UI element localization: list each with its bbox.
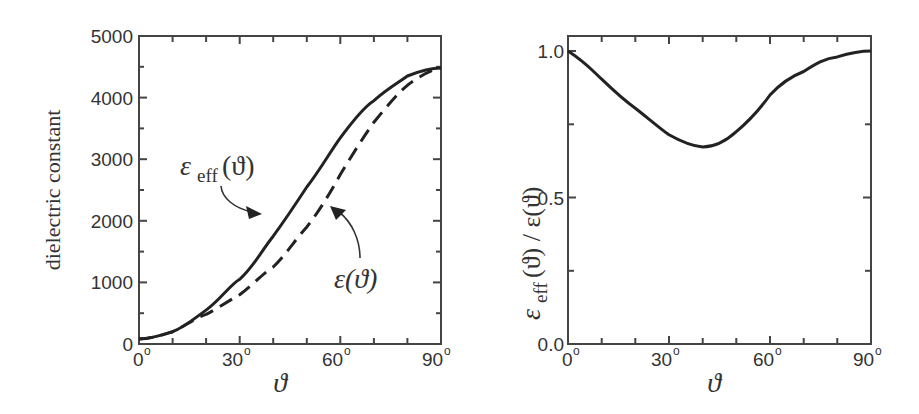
right-plot-frame bbox=[568, 36, 871, 344]
right-xtick-30: 30 bbox=[651, 349, 672, 370]
left-y-ticks bbox=[139, 67, 441, 313]
figure: 0 1000 2000 3000 4000 5000 0 o 30 o 60 o… bbox=[0, 0, 919, 414]
annotation-eps-eff-symbol: ε bbox=[180, 150, 191, 181]
right-y-axis-label: ε eff (ϑ) / ε(ϑ) bbox=[515, 186, 551, 320]
degree-symbol: o bbox=[144, 344, 151, 358]
degree-symbol: o bbox=[673, 344, 680, 358]
left-panel: 0 1000 2000 3000 4000 5000 0 o 30 o 60 o… bbox=[40, 26, 451, 398]
left-ytick-3000: 3000 bbox=[91, 149, 133, 170]
degree-symbol: o bbox=[344, 344, 351, 358]
left-x-axis-label: ϑ bbox=[273, 367, 288, 398]
left-xtick-30: 30 bbox=[222, 349, 243, 370]
right-panel: 0.0 0.5 1.0 0 o 30 o 60 o 90 o ϑ ε eff (… bbox=[515, 36, 882, 398]
arrowhead-icon bbox=[330, 206, 346, 220]
right-ytick-0: 0.0 bbox=[538, 334, 564, 355]
ratio-curve bbox=[568, 51, 871, 147]
left-xtick-0: 0 bbox=[133, 349, 144, 370]
annotation-eps-eff-subscript: eff bbox=[197, 165, 218, 186]
left-ytick-0: 0 bbox=[122, 334, 133, 355]
arrow-icon bbox=[339, 212, 360, 258]
right-xtick-0: 0 bbox=[562, 349, 573, 370]
left-ytick-4000: 4000 bbox=[91, 88, 133, 109]
left-y-axis-label: dielectric constant bbox=[40, 110, 65, 271]
eps-curve bbox=[139, 68, 441, 339]
annotation-eps: ε(ϑ) bbox=[330, 206, 377, 294]
left-ytick-1000: 1000 bbox=[91, 272, 133, 293]
right-xtick-labels: 0 o 30 o 60 o 90 o bbox=[562, 344, 882, 370]
degree-symbol: o bbox=[775, 344, 782, 358]
left-xtick-labels: 0 o 30 o 60 o 90 o bbox=[133, 344, 451, 370]
degree-symbol: o bbox=[444, 344, 451, 358]
right-y-axis-label-symbol: ε bbox=[515, 309, 546, 320]
right-x-ticks bbox=[602, 36, 838, 344]
left-ytick-5000: 5000 bbox=[91, 26, 133, 47]
left-xtick-90: 90 bbox=[422, 349, 443, 370]
right-y-ticks bbox=[568, 51, 871, 271]
annotation-eps-label: ε(ϑ) bbox=[334, 263, 377, 294]
right-xtick-90: 90 bbox=[853, 349, 874, 370]
right-y-axis-label-subscript: eff bbox=[530, 282, 551, 303]
arrowhead-icon bbox=[246, 206, 262, 219]
left-xtick-60: 60 bbox=[322, 349, 343, 370]
left-plot-frame bbox=[139, 36, 441, 344]
annotation-eps-eff: ε eff (ϑ) bbox=[180, 150, 262, 219]
right-xtick-60: 60 bbox=[753, 349, 774, 370]
eps-eff-curve bbox=[139, 68, 441, 339]
annotation-eps-eff-argument: (ϑ) bbox=[222, 150, 255, 181]
degree-symbol: o bbox=[244, 344, 251, 358]
degree-symbol: o bbox=[573, 344, 580, 358]
left-ytick-2000: 2000 bbox=[91, 211, 133, 232]
right-x-axis-label: ϑ bbox=[707, 367, 722, 398]
left-x-ticks bbox=[173, 36, 408, 344]
right-ytick-1.0: 1.0 bbox=[538, 41, 564, 62]
degree-symbol: o bbox=[875, 344, 882, 358]
right-y-axis-label-rest: (ϑ) / ε(ϑ) bbox=[517, 186, 546, 278]
